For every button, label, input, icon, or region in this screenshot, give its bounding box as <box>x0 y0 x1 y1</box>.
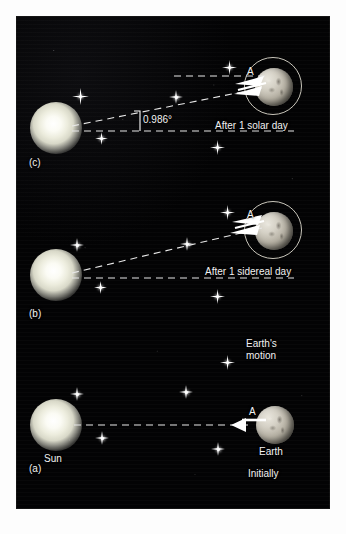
star <box>94 281 107 294</box>
angle-label: 0.986° <box>143 114 172 126</box>
star-field-panel: A 0.986° After 1 solar day (c) A After 1… <box>16 16 330 509</box>
caption-panel-c: After 1 solar day <box>215 120 288 132</box>
sun-label: Sun <box>44 453 62 465</box>
panel-label-c: (c) <box>29 157 41 169</box>
earth-label: Earth <box>259 446 283 458</box>
point-a-label-c: A <box>247 66 254 78</box>
star <box>95 431 109 445</box>
caption-panel-a: Initially <box>248 468 279 480</box>
star <box>180 237 194 251</box>
star <box>211 442 225 456</box>
panel-label-a: (a) <box>29 463 41 475</box>
star <box>210 289 225 304</box>
figure-root: A 0.986° After 1 solar day (c) A After 1… <box>0 0 346 534</box>
star <box>70 387 84 401</box>
sun-body <box>30 399 82 451</box>
caption-panel-b: After 1 sidereal day <box>205 266 291 278</box>
earth-motion-label-line2: motion <box>246 350 276 362</box>
earth-body <box>256 406 294 444</box>
earth-motion-label-line1: Earth's <box>246 338 277 350</box>
earth-surface-texture <box>256 406 294 444</box>
panel-label-b: (b) <box>29 308 41 320</box>
star <box>210 140 225 155</box>
sun-body <box>30 102 82 154</box>
point-a-label-a: A <box>249 406 256 418</box>
star <box>220 355 235 370</box>
point-a-label-b: A <box>247 209 254 221</box>
star <box>95 132 108 145</box>
star <box>72 88 89 105</box>
sun-body <box>30 249 82 301</box>
star <box>179 385 193 399</box>
earth-surface-texture <box>255 212 293 250</box>
earth-body <box>255 68 293 106</box>
star <box>70 238 84 252</box>
star <box>222 60 237 75</box>
earth-surface-texture <box>255 68 293 106</box>
star <box>169 90 183 104</box>
earth-body <box>255 212 293 250</box>
star <box>220 205 235 220</box>
